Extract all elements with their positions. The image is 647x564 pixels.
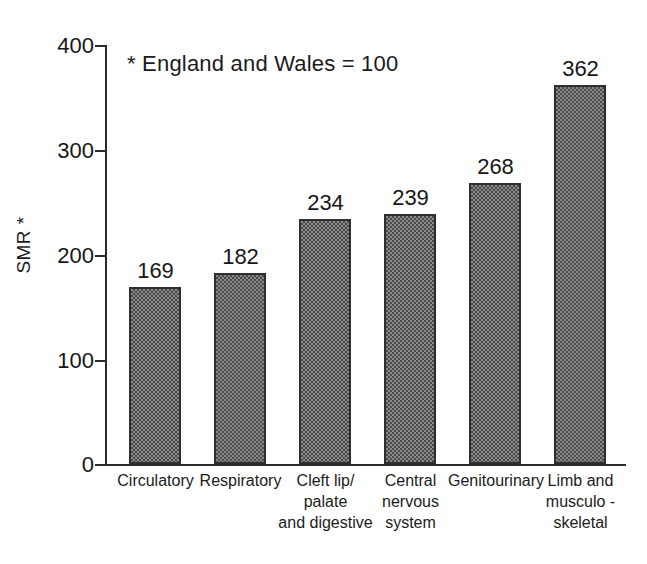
y-tick-label-0: 0 — [36, 454, 94, 476]
y-tick-label-200: 200 — [36, 245, 94, 267]
x-label-cleft-lip-palate-and-digestive: Cleft lip/ palate and digestive — [278, 470, 373, 533]
bar-group-genitourinary: 268 — [453, 45, 538, 464]
bar-value-label: 182 — [198, 246, 283, 268]
x-label-circulatory: Circulatory — [108, 470, 203, 491]
y-tick-label-100: 100 — [36, 350, 94, 372]
bar-group-circulatory: 169 — [113, 45, 198, 464]
x-label-line: Limb and — [533, 470, 628, 491]
x-label-genitourinary: Genitourinary — [448, 470, 543, 491]
bar-central-nervous-system[interactable] — [384, 214, 436, 464]
bar-group-respiratory: 182 — [198, 45, 283, 464]
x-label-line: musculo - — [533, 491, 628, 512]
bar-group-cleft-lip-palate-and-digestive: 234 — [283, 45, 368, 464]
y-tick-label-300: 300 — [36, 140, 94, 162]
x-label-limb-and-musculo-skeletal: Limb and musculo - skeletal — [533, 470, 628, 533]
bar-respiratory[interactable] — [214, 273, 266, 464]
x-label-line: system — [363, 512, 458, 533]
x-label-line: palate — [278, 491, 373, 512]
x-label-line: Circulatory — [108, 470, 203, 491]
x-label-line: and digestive — [278, 512, 373, 533]
x-label-line: nervous — [363, 491, 458, 512]
bar-value-label: 169 — [113, 260, 198, 282]
bar-genitourinary[interactable] — [469, 183, 521, 464]
bar-circulatory[interactable] — [129, 287, 181, 464]
x-axis-line — [105, 464, 626, 466]
plot-area: * England and Wales = 100 169 182 234 23… — [107, 45, 626, 464]
bar-group-limb-and-musculo-skeletal: 362 — [538, 45, 623, 464]
bar-value-label: 362 — [538, 58, 623, 80]
bar-value-label: 239 — [368, 187, 453, 209]
x-label-line: Respiratory — [193, 470, 288, 491]
bar-value-label: 268 — [453, 156, 538, 178]
x-label-line: Central — [363, 470, 458, 491]
x-label-respiratory: Respiratory — [193, 470, 288, 491]
bar-limb-and-musculo-skeletal[interactable] — [554, 85, 606, 464]
x-label-line: skeletal — [533, 512, 628, 533]
x-label-line: Genitourinary — [448, 470, 543, 491]
bar-cleft-lip-palate-and-digestive[interactable] — [299, 219, 351, 464]
bar-group-central-nervous-system: 239 — [368, 45, 453, 464]
x-label-line: Cleft lip/ — [278, 470, 373, 491]
x-label-central-nervous-system: Central nervous system — [363, 470, 458, 533]
bar-value-label: 234 — [283, 192, 368, 214]
y-tick-label-400: 400 — [36, 35, 94, 57]
y-axis-tick-labels: 400 300 200 100 0 — [36, 0, 94, 564]
bar-chart: SMR * 400 300 200 100 0 * England and Wa… — [0, 0, 647, 564]
x-axis-category-labels: Circulatory Respiratory Cleft lip/ palat… — [107, 470, 626, 562]
